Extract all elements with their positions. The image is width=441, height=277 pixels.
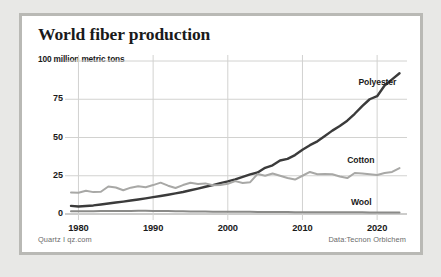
credit-source: Quartz I qz.com <box>38 235 92 244</box>
y-tick-0: 0 <box>37 208 63 218</box>
x-tick-2010: 2010 <box>279 223 325 233</box>
chart-plot-area <box>22 16 420 252</box>
x-tick-1980: 1980 <box>55 223 101 233</box>
y-tick-25: 25 <box>37 170 63 180</box>
credit-data: Data:Tecnon Orbichem <box>328 235 406 244</box>
series-label-wool: Wool <box>351 197 371 207</box>
x-tick-2000: 2000 <box>205 223 251 233</box>
series-label-cotton: Cotton <box>347 155 374 165</box>
y-tick-50: 50 <box>37 132 63 142</box>
x-tick-1990: 1990 <box>130 223 176 233</box>
y-tick-75: 75 <box>37 93 63 103</box>
series-label-polyester: Polyester <box>358 77 396 87</box>
chart-card: World fiber production 100 million metri… <box>19 13 423 255</box>
x-tick-2020: 2020 <box>354 223 400 233</box>
